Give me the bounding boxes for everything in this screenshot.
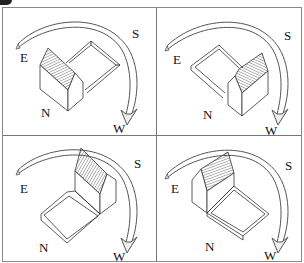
label-south: S bbox=[285, 159, 292, 172]
label-south: S bbox=[132, 27, 139, 40]
label-south: S bbox=[284, 29, 291, 42]
label-north: N bbox=[203, 108, 212, 121]
label-east: E bbox=[20, 51, 28, 64]
panel-bottom-right: E S W N bbox=[157, 136, 304, 262]
label-north: N bbox=[205, 240, 214, 253]
label-east: E bbox=[173, 53, 181, 66]
label-west: W bbox=[264, 249, 276, 262]
corner-mark bbox=[0, 0, 12, 5]
house-courtyard-illustration bbox=[157, 8, 304, 134]
diagram-grid: E S W N E S W N bbox=[2, 7, 302, 262]
label-north: N bbox=[41, 106, 50, 119]
label-east: E bbox=[171, 182, 179, 195]
label-north: N bbox=[39, 241, 48, 254]
house-courtyard-illustration bbox=[157, 136, 304, 262]
panel-bottom-left: E S W N bbox=[3, 136, 153, 262]
label-west: W bbox=[113, 250, 125, 263]
house-courtyard-illustration bbox=[3, 136, 153, 262]
label-east: E bbox=[20, 182, 28, 195]
panel-top-left: E S W N bbox=[3, 8, 153, 134]
panel-top-right: E S W N bbox=[157, 8, 304, 134]
label-south: S bbox=[134, 157, 141, 170]
house-courtyard-illustration bbox=[3, 8, 153, 134]
label-west: W bbox=[113, 122, 125, 135]
